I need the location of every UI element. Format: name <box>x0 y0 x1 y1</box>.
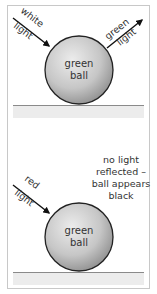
note-line1: no light <box>103 154 139 165</box>
note-line4: black <box>108 190 134 201</box>
panel-top: green ball white light green light <box>12 5 144 118</box>
incoming-label-line2: light <box>13 187 37 209</box>
ball-label-line1: green <box>65 225 94 236</box>
note-line2: reflected – <box>96 166 146 177</box>
diagram-canvas: green ball white light green light green… <box>0 0 157 294</box>
panel-bottom: green ball red light no light reflected … <box>13 154 151 285</box>
note-line3: ball appears <box>92 178 151 189</box>
ball-label-line1: green <box>65 58 94 69</box>
result-note: no light reflected – ball appears black <box>92 154 151 201</box>
ball-label-line2: ball <box>70 237 88 248</box>
floor <box>13 106 144 118</box>
ball-label-line2: ball <box>70 70 88 81</box>
floor <box>13 273 144 285</box>
incoming-label-line1: red <box>23 173 42 191</box>
